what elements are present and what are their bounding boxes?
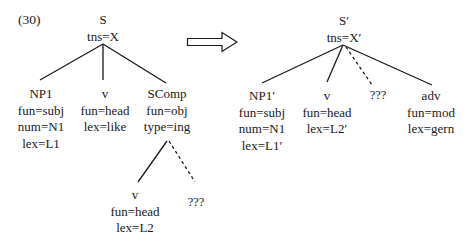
node-category: SComp [144,86,190,103]
node-adv: adv fun=mod lex=gern [407,88,455,138]
node-feature: fun=mod [407,105,455,122]
node-feature: lex=L2 [110,220,159,237]
node-category: S [87,12,119,29]
node-category: S′ [327,13,362,30]
edge-scomp-v [138,141,167,182]
edge-s-np1 [40,44,103,80]
node-feature: lex=like [80,119,129,136]
node-feature: lex=L2′ [302,121,351,138]
node-feature: lex=L1 [18,136,64,153]
example-number: (30) [18,12,41,28]
right-hollow-arrow-icon [188,33,238,52]
node-feature: num=N1 [239,121,285,138]
node-feature: fun=head [302,105,351,122]
node-category: NP1 [18,86,64,103]
node-feature: lex=gern [407,121,455,138]
edge-sp-v [327,45,343,82]
node-v: v fun=head lex=like [80,86,129,136]
node-feature: lex=L1′ [239,138,285,155]
node-feature: num=N1 [18,119,64,136]
node-feature: tns=X′ [327,30,362,47]
node-s-root: S tns=X [87,12,119,45]
node-feature: fun=head [110,204,159,221]
node-scomp-unknown: ??? [188,195,205,210]
node-category: v [110,187,159,204]
node-category: v [80,86,129,103]
node-v-prime: v fun=head lex=L2′ [302,88,351,138]
node-category: NP1′ [239,88,285,105]
node-category: adv [407,88,455,105]
node-feature: type=ing [144,119,190,136]
node-np1-prime: NP1′ fun=subj num=N1 lex=L1′ [239,88,285,154]
node-feature: fun=subj [18,103,64,120]
node-scomp-v: v fun=head lex=L2 [110,187,159,237]
node-feature: fun=obj [144,103,190,120]
node-np1: NP1 fun=subj num=N1 lex=L1 [18,86,64,152]
edge-sp-np1p [262,45,343,83]
node-feature: fun=head [80,103,129,120]
node-feature: fun=subj [239,105,285,122]
node-scomp: SComp fun=obj type=ing [144,86,190,136]
tree-edges [0,0,468,244]
node-right-unknown: ??? [370,88,387,103]
edge-sp-adv [343,45,432,85]
edge-scomp-unknown [169,141,195,182]
node-category: v [302,88,351,105]
node-feature: tns=X [87,29,119,46]
edge-s-scomp [103,44,166,83]
node-s-prime-root: S′ tns=X′ [327,13,362,46]
